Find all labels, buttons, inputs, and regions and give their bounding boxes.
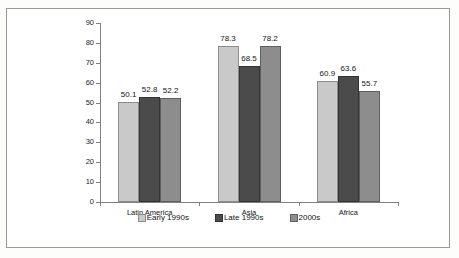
bar: [239, 66, 260, 202]
bar-group: [218, 23, 281, 202]
y-axis-tick-mark: [96, 122, 100, 123]
bar: [218, 46, 239, 202]
y-axis-tick-mark: [96, 103, 100, 104]
x-axis-tick-mark: [100, 202, 101, 206]
bar: [139, 97, 160, 202]
y-axis-tick-mark: [96, 162, 100, 163]
y-axis-tick-label: 0: [90, 198, 94, 206]
y-axis-tick-label: 60: [86, 79, 94, 87]
bar-group: [317, 23, 380, 202]
legend-item-label: 2000s: [299, 214, 321, 222]
y-axis-tick-label: 30: [86, 139, 94, 147]
x-axis-line: [100, 202, 398, 203]
legend-swatch-2000s: [290, 214, 298, 222]
bar: [160, 98, 181, 202]
y-axis-tick-label: 80: [86, 39, 94, 47]
legend-item[interactable]: Late 1990s: [215, 214, 264, 222]
y-axis-tick-mark: [96, 63, 100, 64]
y-axis-tick-label: 10: [86, 178, 94, 186]
y-axis-tick-mark: [96, 23, 100, 24]
x-axis-tick-mark: [199, 202, 200, 206]
y-axis-tick-mark: [96, 43, 100, 44]
bar: [260, 46, 281, 202]
bar: [359, 91, 380, 202]
legend-swatch-late-1990s: [215, 214, 223, 222]
y-axis-tick-label: 50: [86, 99, 94, 107]
legend-item-label: Late 1990s: [224, 214, 264, 222]
x-axis-tick-mark: [299, 202, 300, 206]
bar: [317, 81, 338, 202]
legend-item[interactable]: 2000s: [290, 214, 321, 222]
bar: [118, 102, 139, 202]
x-axis-tick-mark: [398, 202, 399, 206]
y-axis-title: Informal employment (in %): [59, 0, 68, 9]
y-axis-tick-mark: [96, 142, 100, 143]
y-axis-tick-label: 40: [86, 119, 94, 127]
y-axis-line: [100, 23, 101, 202]
legend-swatch-early-1990s: [138, 214, 146, 222]
y-axis-tick-label: 90: [86, 19, 94, 27]
chart-legend: Early 1990sLate 1990s2000s: [7, 214, 451, 222]
bar: [338, 76, 359, 202]
chart-frame: Informal employment (in %) 0102030405060…: [6, 8, 450, 248]
page-background: Informal employment (in %) 0102030405060…: [0, 0, 459, 258]
bar-group: [118, 23, 181, 202]
y-axis-tick-label: 20: [86, 158, 94, 166]
y-axis-tick-mark: [96, 182, 100, 183]
plot-area: 0102030405060708090 50.152.852.278.368.5…: [100, 23, 398, 208]
y-axis-tick-label: 70: [86, 59, 94, 67]
y-axis-tick-mark: [96, 83, 100, 84]
legend-item[interactable]: Early 1990s: [138, 214, 189, 222]
legend-item-label: Early 1990s: [147, 214, 189, 222]
